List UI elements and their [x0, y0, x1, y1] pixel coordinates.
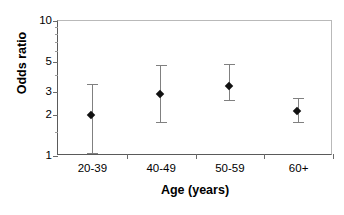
error-bar-upper-cap [293, 98, 304, 99]
y-axis-minor-tick [55, 75, 58, 76]
y-axis-tick [53, 21, 58, 22]
y-axis-minor-tick [55, 42, 58, 43]
odds-ratio-chart: Odds ratio 12351020-3940-4950-5960+ Age … [0, 0, 344, 215]
x-axis-title: Age (years) [58, 183, 332, 197]
y-axis-tick [53, 115, 58, 116]
y-axis-tick-label: 2 [12, 109, 52, 121]
x-axis-tick [333, 154, 334, 159]
data-point-marker [293, 107, 301, 115]
x-axis-tick [127, 154, 128, 159]
y-axis-tick [53, 156, 58, 157]
error-bar-lower-cap [224, 100, 235, 101]
y-axis-tick [53, 92, 58, 93]
y-axis-tick-label: 3 [12, 86, 52, 98]
error-bar-upper-cap [87, 84, 98, 85]
data-point-marker [87, 111, 95, 119]
plot-area: 12351020-3940-4950-5960+ [57, 20, 332, 155]
error-bar-lower-cap [87, 153, 98, 154]
error-bar-lower-cap [293, 122, 304, 123]
y-axis-tick [53, 62, 58, 63]
y-axis-minor-tick [55, 27, 58, 28]
y-axis-minor-tick [55, 51, 58, 52]
x-axis-tick-label: 60+ [259, 162, 339, 174]
x-axis-tick [264, 154, 265, 159]
y-axis-tick-label: 10 [12, 15, 52, 27]
y-axis-minor-tick [55, 132, 58, 133]
error-bar-line [92, 84, 93, 153]
y-axis-tick-label: 1 [12, 150, 52, 162]
y-axis-minor-tick [55, 34, 58, 35]
error-bar-lower-cap [156, 122, 167, 123]
data-point-marker [156, 89, 164, 97]
error-bar-upper-cap [224, 64, 235, 65]
data-point-marker [224, 82, 232, 90]
y-axis-tick-label: 5 [12, 56, 52, 68]
x-axis-tick [196, 154, 197, 159]
error-bar-upper-cap [156, 65, 167, 66]
